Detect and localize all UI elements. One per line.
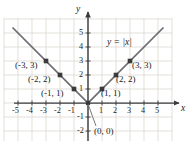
y-axis-label: y [76,5,80,15]
x-tick-label-1: 1 [99,107,103,115]
y-tick-label-4: 4 [79,43,83,51]
x-tick-label-neg1: -1 [68,107,75,115]
x-tick-label-3: 3 [127,107,131,115]
x-tick-label-5: 5 [155,107,159,115]
point-label-0-0: (0, 0) [94,127,114,136]
point-label-1-1: (1, 1) [101,89,121,98]
point-label-neg3-3: (-3, 3) [15,61,38,70]
y-tick-label-2: 2 [79,71,83,79]
x-tick-label-neg5: -5 [12,107,19,115]
point-label-2-2: (2, 2) [116,75,136,84]
y-tick-label-1: 1 [79,85,83,93]
equation-label: y = |x| [107,38,132,48]
x-tick-label-2: 2 [113,107,117,115]
x-tick-label-neg3: -3 [40,107,47,115]
point-label-neg2-2: (-2, 2) [28,75,51,84]
y-tick-label-neg2: -2 [77,127,84,135]
y-tick-label-3: 3 [79,57,83,65]
x-axis-label: x [181,104,185,114]
origin-leader-line [88,104,96,126]
y-tick-label-neg1: -1 [77,113,84,121]
point-label-3-3: (3, 3) [132,61,152,70]
x-tick-label-neg2: -2 [54,107,61,115]
x-tick-label-neg4: -4 [26,107,33,115]
point-label-neg1-1: (-1, 1) [41,89,64,98]
y-tick-label-5: 5 [79,29,83,37]
graph-figure: y x -5 -4 -3 -2 -1 1 2 3 4 5 5 4 3 2 1 -… [0,0,193,150]
x-tick-label-4: 4 [141,107,145,115]
